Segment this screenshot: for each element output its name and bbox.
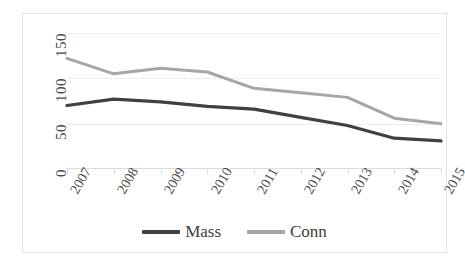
x-tick-2012 [301,169,302,174]
chart-figure: 150 100 50 0 2007 2008 2009 2010 2011 20… [22,13,447,253]
x-tick-label-2007: 2007 [67,165,95,197]
series-container [67,33,441,169]
legend-swatch-mass [142,230,180,234]
legend-entry-mass[interactable]: Mass [142,222,221,242]
line-series-conn [67,58,441,123]
x-tick-2011 [254,169,255,174]
x-tick-2008 [114,169,115,174]
x-tick-label-2015: 2015 [441,165,465,197]
legend-label-mass: Mass [185,222,221,242]
legend-swatch-conn [247,230,285,234]
x-tick-2014 [394,169,395,174]
x-tick-label-2014: 2014 [395,165,423,197]
chart-legend: Mass Conn [23,222,446,242]
x-tick-2007 [67,169,68,174]
x-tick-2013 [348,169,349,174]
x-tick-2010 [207,169,208,174]
legend-entry-conn[interactable]: Conn [247,222,327,242]
x-tick-label-2010: 2010 [208,165,236,197]
line-series-mass [67,99,441,141]
x-tick-2009 [161,169,162,174]
legend-label-conn: Conn [290,222,327,242]
plot-area: 150 100 50 0 2007 2008 2009 2010 2011 20… [67,33,441,169]
x-tick-label-2011: 2011 [255,165,283,197]
x-tick-label-2009: 2009 [161,165,189,197]
x-tick-label-2013: 2013 [348,165,376,197]
x-tick-label-2008: 2008 [114,165,142,197]
x-tick-label-2012: 2012 [301,165,329,197]
x-tick-2015 [441,169,442,174]
